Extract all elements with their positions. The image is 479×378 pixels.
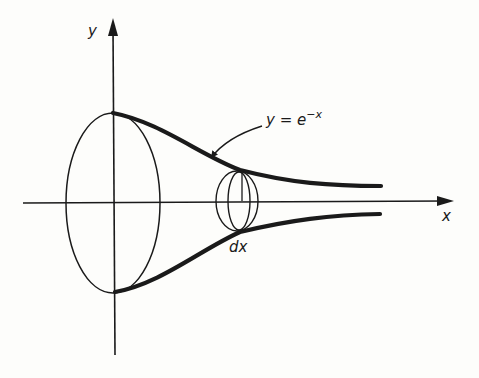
y-axis-label: y <box>87 22 98 40</box>
y-axis <box>108 18 118 355</box>
dx-label: dx <box>229 238 248 256</box>
x-axis <box>23 196 454 206</box>
y-axis-arrow-icon <box>108 18 118 36</box>
x-axis-arrow-icon <box>437 196 454 206</box>
curve-pointer-arrow-icon <box>211 126 262 158</box>
diagram-canvas: y = e−x dx x y <box>0 0 479 378</box>
lower-curve <box>115 214 380 292</box>
x-axis-label: x <box>441 207 451 225</box>
disk-element <box>216 171 258 231</box>
curve-equation-label: y = e−x <box>265 108 322 129</box>
